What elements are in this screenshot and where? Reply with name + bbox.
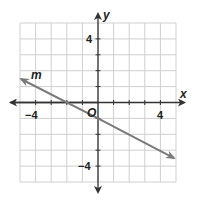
x-tick-label-neg4: −4 [25, 109, 38, 121]
y-axis-label: y [102, 8, 111, 22]
line-m [98, 118, 174, 158]
y-tick-label-4: 4 [86, 33, 93, 45]
line-m-label: m [31, 68, 42, 82]
y-tick-label-neg4: −4 [78, 160, 91, 172]
coordinate-plane: y x m O −4 4 4 −4 [0, 0, 197, 199]
origin-label: O [87, 106, 97, 120]
x-tick-label-4: 4 [157, 109, 164, 121]
x-axis-label: x [179, 87, 188, 101]
